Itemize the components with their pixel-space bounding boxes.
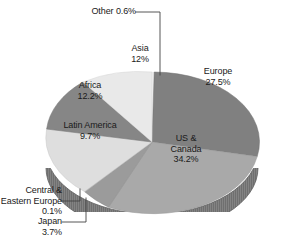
callout-label-cee-name-2: Eastern Europe <box>0 196 62 207</box>
callout-label-japan-value: 3.7% <box>0 227 62 238</box>
callout-label-other: Other 0.6% <box>56 6 136 17</box>
callout-label-japan-name: Japan <box>0 216 62 227</box>
callout-label-cee-value: 0.1% <box>0 206 62 217</box>
slice-label-africa: Africa 12.2% <box>62 80 118 101</box>
slice-label-africa-value: 12.2% <box>62 91 118 102</box>
callout-label-central-eastern-europe: Central & Eastern Europe 0.1% <box>0 185 62 217</box>
slice-label-europe-name: Europe <box>188 66 248 77</box>
slice-label-asia-value: 12% <box>118 54 162 65</box>
slice-label-asia: Asia 12% <box>118 43 162 64</box>
callout-label-japan: Japan 3.7% <box>0 216 62 237</box>
pie-chart-figure: Europe 27.5% US & Canada 34.2% Asia 12% … <box>0 0 290 244</box>
slice-label-latin-america-name: Latin America <box>44 120 136 131</box>
slice-label-europe: Europe 27.5% <box>188 66 248 87</box>
slice-label-latin-america-value: 9.7% <box>44 131 136 142</box>
slice-label-latin-america: Latin America 9.7% <box>44 120 136 141</box>
slice-label-us-canada: US & Canada 34.2% <box>155 133 217 165</box>
callout-label-cee-name-1: Central & <box>0 185 62 196</box>
slice-label-europe-value: 27.5% <box>188 77 248 88</box>
slice-label-asia-name: Asia <box>118 43 162 54</box>
slice-label-africa-name: Africa <box>62 80 118 91</box>
slice-label-us-canada-name-1: US & <box>155 133 217 144</box>
slice-label-us-canada-value: 34.2% <box>155 154 217 165</box>
slice-label-us-canada-name-2: Canada <box>155 144 217 155</box>
callout-label-other-text: Other 0.6% <box>56 6 136 17</box>
